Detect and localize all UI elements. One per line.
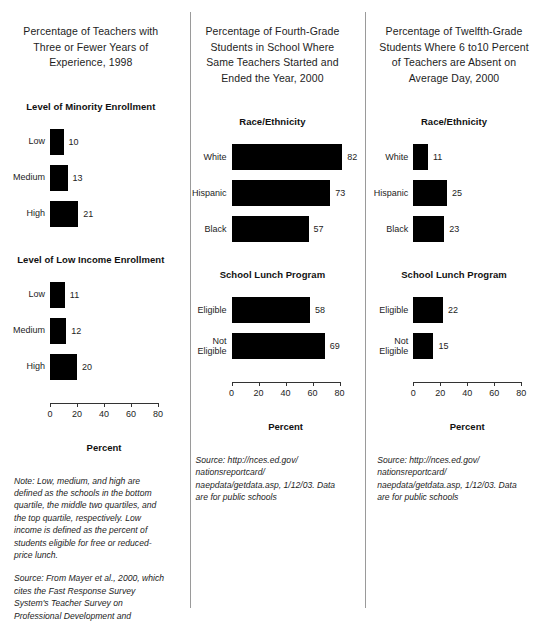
bar-row: Low11	[0, 277, 182, 313]
bar	[413, 216, 444, 242]
axis-tick	[286, 382, 287, 386]
axis-tick	[521, 382, 522, 386]
axis-tick	[413, 382, 414, 386]
chart-group: Level of Low Income EnrollmentLow11Mediu…	[0, 254, 182, 385]
bar-row: Not Eligible15	[363, 328, 545, 364]
bar-row: White82	[182, 139, 364, 175]
bar-row: Eligible22	[363, 292, 545, 328]
bar-label: High	[0, 361, 50, 372]
bar-label: Black	[182, 224, 232, 235]
axis-tick-label: 0	[47, 409, 52, 419]
bar-label: White	[363, 152, 413, 163]
bar-row: High21	[0, 196, 182, 232]
bar-row: Black57	[182, 211, 364, 247]
bar-track: 82	[232, 144, 364, 170]
axis-tick	[440, 382, 441, 386]
bar-value: 13	[68, 173, 83, 183]
axis-tick-label: 60	[489, 388, 499, 398]
footnotes: Note: Low, medium, and high are defined …	[0, 475, 182, 622]
bar-group: Eligible58Not Eligible69	[182, 292, 364, 364]
bar	[50, 165, 68, 191]
x-axis: 020406080	[50, 403, 158, 425]
chart-panel: Percentage of Teachers with Three or Few…	[0, 0, 182, 622]
axis-tick-label: 0	[229, 388, 234, 398]
bar	[232, 297, 310, 323]
bar-value: 25	[447, 188, 462, 198]
footnote: Source: From Mayer et al., 2000, which c…	[14, 572, 166, 622]
bar-label: Low	[0, 289, 50, 300]
bar-track: 11	[413, 144, 545, 170]
bar	[413, 333, 433, 359]
group-title: School Lunch Program	[182, 269, 364, 280]
footnote-text: Low, medium, and high are defined as the…	[14, 476, 156, 560]
bar-track: 57	[232, 216, 364, 242]
axis-tick-label: 80	[516, 388, 526, 398]
group-title: School Lunch Program	[363, 269, 545, 280]
bar-label: Hispanic	[182, 188, 232, 199]
bar	[50, 201, 78, 227]
bar-group: White11Hispanic25Black23	[363, 139, 545, 247]
bar	[232, 333, 325, 359]
bar-label: Not Eligible	[363, 336, 413, 357]
axis-caption: Percent	[232, 421, 340, 432]
bar-track: 23	[413, 216, 545, 242]
axis-tick-label: 40	[281, 388, 291, 398]
axis-tick-label: 40	[462, 388, 472, 398]
bar-row: Hispanic25	[363, 175, 545, 211]
axis-tick	[158, 403, 159, 407]
bar-value: 11	[428, 152, 442, 162]
group-title: Race/Ethnicity	[363, 116, 545, 127]
axis-tick-label: 60	[308, 388, 318, 398]
footnote-lead: Note:	[14, 476, 35, 486]
bar	[50, 318, 66, 344]
axis-tick	[131, 403, 132, 407]
bar-value: 82	[342, 152, 357, 162]
group-title: Level of Low Income Enrollment	[0, 254, 182, 265]
bar-track: 13	[50, 165, 182, 191]
chart-group: School Lunch ProgramEligible22Not Eligib…	[363, 269, 545, 364]
axis-tick-label: 0	[411, 388, 416, 398]
axis-tick	[259, 382, 260, 386]
axis-tick	[313, 382, 314, 386]
bar-value: 73	[330, 188, 345, 198]
bar	[50, 129, 64, 155]
panel-title: Percentage of Fourth-Grade Students in S…	[182, 0, 364, 86]
footnote-lead: Source:	[377, 455, 407, 465]
footnote: Note: Low, medium, and high are defined …	[14, 475, 166, 562]
axis-tick-label: 80	[335, 388, 345, 398]
axis-tick-label: 20	[254, 388, 264, 398]
bar-label: Not Eligible	[182, 336, 232, 357]
axis-tick	[232, 382, 233, 386]
bar-value: 21	[78, 209, 93, 219]
bar-label: Eligible	[363, 305, 413, 316]
bar-track: 73	[232, 180, 364, 206]
bar-label: Medium	[0, 172, 50, 183]
axis-tick	[104, 403, 105, 407]
panel-title: Percentage of Twelfth-Grade Students Whe…	[363, 0, 545, 86]
bar-group: Low11Medium12High20	[0, 277, 182, 385]
bar-label: Low	[0, 136, 50, 147]
bar	[50, 354, 77, 380]
chart-panel: Percentage of Twelfth-Grade Students Whe…	[363, 0, 545, 622]
bar	[413, 180, 447, 206]
footnote-lead: Source:	[14, 573, 44, 583]
footnote-lead: Source:	[196, 455, 226, 465]
bar-value: 20	[77, 362, 92, 372]
bar	[413, 297, 443, 323]
axis-tick	[494, 382, 495, 386]
bar	[232, 216, 309, 242]
bar-label: Hispanic	[363, 188, 413, 199]
figure-root: Percentage of Teachers with Three or Few…	[0, 0, 545, 622]
bar-track: 58	[232, 297, 364, 323]
bar-value: 23	[444, 224, 459, 234]
footnote: Source: http://nces.ed.gov/ nationsrepor…	[377, 454, 529, 504]
axis-tick	[50, 403, 51, 407]
bar-row: Black23	[363, 211, 545, 247]
footnotes: Source: http://nces.ed.gov/ nationsrepor…	[182, 454, 364, 504]
bar-label: Eligible	[182, 305, 232, 316]
bar	[232, 180, 331, 206]
bar	[413, 144, 428, 170]
bar-row: Hispanic73	[182, 175, 364, 211]
axis-caption: Percent	[413, 421, 521, 432]
bar-label: White	[182, 152, 232, 163]
